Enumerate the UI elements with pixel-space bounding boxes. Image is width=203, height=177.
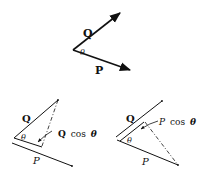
projection-symbol: Q [58, 129, 66, 139]
vector-p-line [12, 143, 72, 166]
vector-q-line [116, 101, 162, 137]
projection-symbol: P [158, 117, 166, 127]
projection-angle: θ [190, 117, 196, 127]
label-theta: θ [80, 48, 85, 57]
label-q: Q [83, 27, 93, 40]
projection-label: P cos θ [158, 117, 196, 127]
top-diagram: Q θ P [73, 13, 130, 77]
projection-func: cos [71, 129, 86, 139]
bottom-left-diagram: Q θ P Q cos θ [12, 99, 97, 167]
label-theta: θ [127, 136, 132, 145]
label-p: P [32, 155, 40, 166]
vector-q-arrow [73, 13, 120, 50]
bottom-right-diagram: Q θ P P cos θ [116, 100, 196, 167]
projection-angle: θ [91, 129, 97, 139]
label-p: P [141, 156, 149, 167]
projection-label: Q cos θ [58, 129, 97, 139]
projection-func: cos [170, 117, 185, 127]
label-q: Q [22, 113, 31, 124]
vector-projection-figure: Q θ P Q θ P Q cos θ Q θ P P cos [0, 0, 203, 177]
label-theta: θ [21, 133, 26, 142]
label-p: P [95, 64, 103, 77]
label-q: Q [126, 113, 135, 124]
